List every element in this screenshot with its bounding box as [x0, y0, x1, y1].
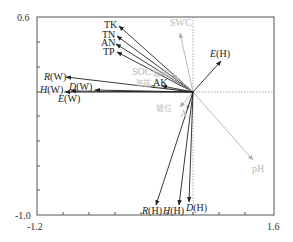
vector-label-tp: TP: [103, 46, 115, 57]
vector-label-swc: SWC: [170, 17, 192, 28]
label-layer: TKTNANTPSWCSOC坡向海拔AK坡位ApHE(H)R(W)H(W)D(W…: [39, 17, 264, 217]
vector-label-rh: R(H): [141, 205, 162, 217]
rda-biplot: 0.6 -1.0 -1.2 1.6 TKTNANTPSWCSOC坡向海拔AK坡位…: [0, 0, 293, 242]
x-min-label: -1.2: [27, 221, 43, 232]
vector-arrow-ph: [193, 92, 253, 160]
vector-label-海拔: 海拔: [135, 78, 151, 88]
vector-label-soc: SOC: [132, 66, 152, 77]
vector-label-dh: D(H): [185, 202, 207, 214]
vector-label-dw: D(W): [68, 81, 92, 93]
vector-label-ew: E(W): [57, 93, 80, 105]
vector-label-ph: pH: [252, 163, 264, 174]
x-max-label: 1.6: [267, 221, 280, 232]
vector-label-rw: R(W): [43, 71, 66, 83]
vector-label-ak: AK: [153, 77, 168, 88]
vector-label-坡位: 坡位: [156, 103, 172, 113]
vector-arrow-eh: [193, 61, 221, 92]
y-max-label: 0.6: [17, 12, 30, 23]
vector-label-hh: H(H): [162, 205, 184, 217]
vector-label-eh: E(H): [209, 48, 230, 60]
vector-arrow-swc: [180, 33, 193, 92]
y-min-label: -1.0: [15, 210, 31, 221]
vector-label-a: A: [180, 108, 188, 119]
plot-frame: [37, 17, 274, 215]
